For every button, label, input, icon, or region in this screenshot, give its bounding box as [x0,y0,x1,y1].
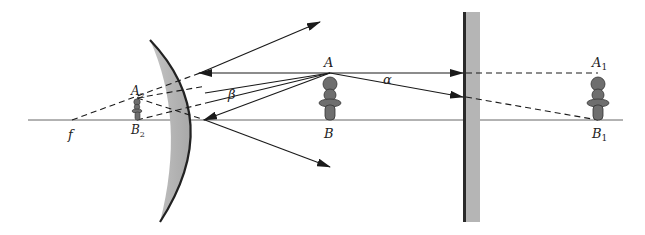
label-A: A [323,55,333,70]
label-focus: f [67,127,75,142]
plane-image-virtual-rays [466,73,598,120]
label-B1: B1 [591,126,607,143]
object-figure [319,77,341,120]
convex-mirror [150,40,191,222]
label-alpha: α [383,72,392,87]
plane-mirror-rays [330,73,463,97]
ray-diagram: A B A1 B1 A2 B2 f α β [0,0,645,235]
label-B: B [323,126,334,141]
plane-image-figure [587,77,609,120]
label-A2: A2 [130,84,145,100]
label-beta: β [227,87,236,102]
convex-image-figure [132,99,142,120]
convex-mirror-rays [199,22,330,167]
label-B2: B2 [130,123,145,139]
plane-mirror [463,12,480,222]
label-A1: A1 [591,55,607,72]
